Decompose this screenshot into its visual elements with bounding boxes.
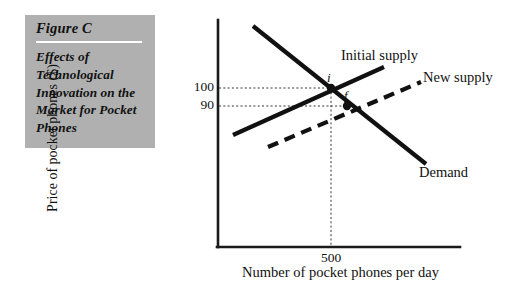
supply-demand-plot — [0, 0, 507, 299]
y-tick-label-90: 90 — [183, 97, 214, 113]
point-label-i: i — [327, 70, 331, 86]
y-axis-title: Price of pocket phones ($) — [45, 38, 61, 238]
x-axis-title: Number of pocket phones per day — [218, 264, 463, 281]
figure-container: Figure C Effects of Technological Innova… — [0, 0, 507, 299]
initial-supply-curve — [233, 67, 384, 135]
initial-supply-label: Initial supply — [341, 47, 418, 64]
y-tick-label-100: 100 — [183, 79, 214, 95]
new-supply-label: New supply — [423, 69, 493, 86]
demand-label: Demand — [419, 164, 468, 181]
point-label-f: f — [344, 88, 348, 104]
